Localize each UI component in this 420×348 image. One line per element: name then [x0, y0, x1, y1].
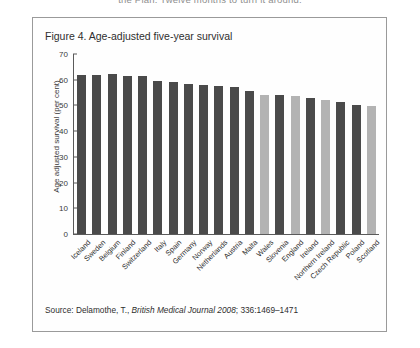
y-tick-label: 0 [64, 230, 68, 239]
source-journal: British Medical Journal 2008 [132, 305, 236, 315]
y-tick-label: 20 [59, 178, 68, 187]
bar [184, 84, 193, 234]
x-axis-line [73, 234, 379, 235]
bar [245, 91, 254, 234]
y-tick-label: 70 [59, 50, 68, 59]
bar [92, 75, 101, 234]
bar [77, 75, 86, 234]
bar [153, 81, 162, 235]
source-prefix: Source: Delamothe, T., [45, 305, 132, 315]
y-axis-tick-labels: 010203040506070 [47, 54, 73, 234]
page-running-header: the Plan. Twelve months to turn it aroun… [0, 0, 420, 3]
bar [367, 106, 376, 234]
bar [214, 86, 223, 234]
chart-plot-area: Age adjusted survival (per cent) 0102030… [33, 54, 388, 269]
bar [260, 95, 269, 234]
y-tick-label: 60 [59, 75, 68, 84]
y-tick-label: 50 [59, 101, 68, 110]
bar [230, 87, 239, 234]
bar [306, 98, 315, 234]
y-tick-label: 40 [59, 127, 68, 136]
source-suffix: ; 336:1469–1471 [236, 305, 298, 315]
bar [123, 76, 132, 234]
bar [336, 102, 345, 234]
bar [275, 95, 284, 234]
figure-source: Source: Delamothe, T., British Medical J… [45, 305, 298, 315]
figure-container: Figure 4. Age-adjusted five-year surviva… [32, 17, 387, 332]
figure-title: Figure 4. Age-adjusted five-year surviva… [45, 30, 232, 42]
y-tick-label: 30 [59, 152, 68, 161]
bar-series [74, 54, 379, 234]
bar [352, 105, 361, 234]
bar [291, 96, 300, 234]
bar [108, 74, 117, 234]
bar [169, 82, 178, 234]
bar [321, 100, 330, 234]
bar [199, 85, 208, 234]
bar [138, 76, 147, 234]
y-tick-label: 10 [59, 204, 68, 213]
x-axis-tick-labels: IcelandSwedenBelgiumFinlandSwitzerlandIt… [74, 236, 379, 306]
